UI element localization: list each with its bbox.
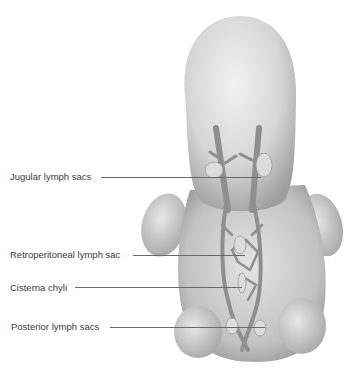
- label-jugular-lymph-sacs: Jugular lymph sacs: [10, 171, 91, 182]
- leader-line-cisterna: [75, 287, 242, 288]
- label-posterior-lymph-sacs: Posterior lymph sacs: [11, 321, 99, 332]
- embryo-illustration: [0, 0, 359, 371]
- jugular-sac-right: [256, 153, 272, 177]
- embryo-head: [184, 16, 296, 211]
- leader-line-jugular: [101, 177, 261, 178]
- leader-line-posterior: [110, 327, 265, 328]
- cisterna-chyli: [238, 273, 246, 293]
- leader-line-retroperitoneal: [133, 255, 245, 256]
- label-cisterna-chyli: Cisterna chyli: [10, 282, 67, 293]
- posterior-sac-left: [226, 318, 238, 334]
- label-retroperitoneal-lymph-sac: Retroperitoneal lymph sac: [10, 249, 120, 260]
- retroperitoneal-sac: [234, 236, 246, 254]
- jugular-sac-left: [205, 162, 223, 178]
- posterior-sac-right: [254, 320, 266, 336]
